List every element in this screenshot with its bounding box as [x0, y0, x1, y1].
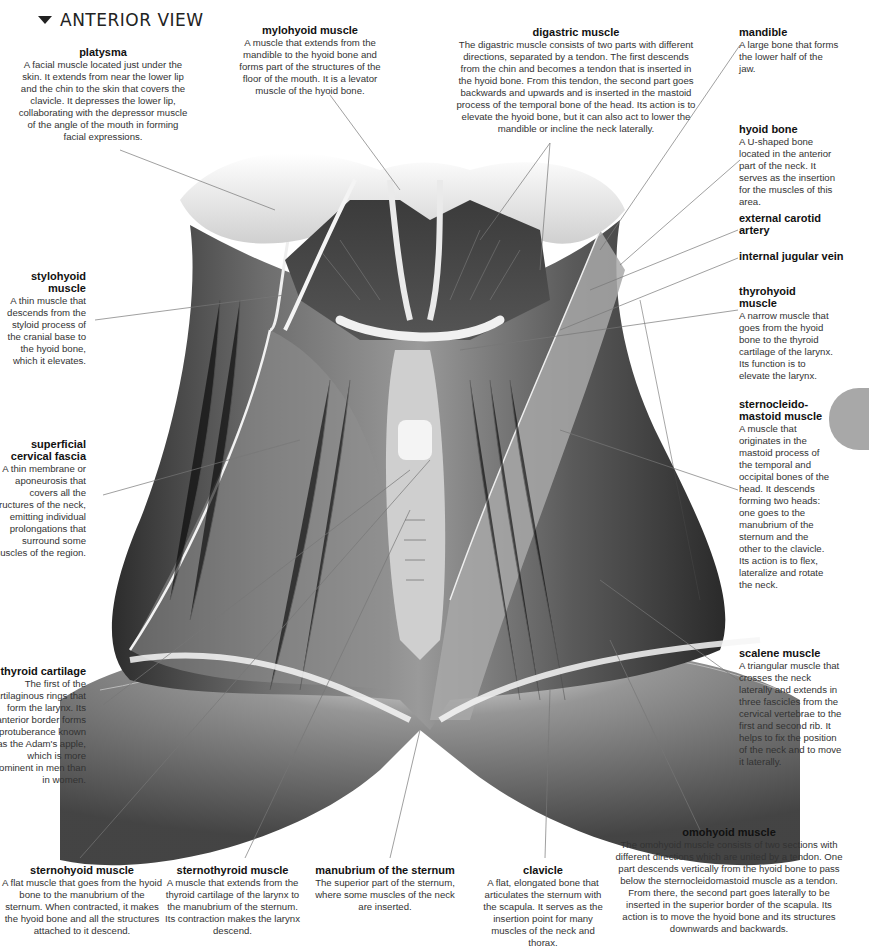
- label-stylohyoid: stylohyoid muscle A thin muscle that des…: [0, 270, 86, 367]
- label-title: sternocleido-mastoid muscle: [739, 398, 831, 422]
- label-title: external carotid artery: [739, 212, 839, 236]
- label-title: mylohyoid muscle: [230, 24, 390, 36]
- label-title: mandible: [739, 26, 839, 38]
- label-scalene: scalene muscle A triangular muscle that …: [739, 647, 844, 768]
- label-title: thyroid cartilage: [0, 665, 86, 677]
- label-title: scalene muscle: [739, 647, 844, 659]
- triangle-down-icon: [38, 16, 52, 24]
- label-clavicle: clavicle A flat, elongated bone that art…: [478, 864, 608, 949]
- label-text: A muscle that extends from the thyroid c…: [165, 877, 300, 936]
- label-text: The omohyoid muscle consists of two sect…: [615, 839, 842, 934]
- label-text: A thin membrane or aponeurosis that cove…: [0, 463, 86, 558]
- label-text: A large bone that forms the lower half o…: [739, 39, 838, 74]
- label-text: A narrow muscle that goes from the hyoid…: [739, 310, 833, 381]
- view-title: ANTERIOR VIEW: [38, 10, 204, 30]
- label-thyrohyoid: thyrohyoid muscle A narrow muscle that g…: [739, 285, 834, 382]
- label-text: A muscle that extends from the mandible …: [239, 37, 380, 96]
- label-text: A U-shaped bone located in the anterior …: [739, 136, 835, 207]
- label-digastric: digastric muscle The digastric muscle co…: [456, 26, 696, 135]
- label-external-carotid-artery: external carotid artery: [739, 212, 839, 237]
- label-hyoid-bone: hyoid bone A U-shaped bone located in th…: [739, 123, 844, 208]
- label-title: stylohyoid muscle: [0, 270, 86, 294]
- label-manubrium: manubrium of the sternum The superior pa…: [312, 864, 458, 913]
- label-text: A facial muscle located just under the s…: [19, 59, 188, 142]
- label-text: A flat muscle that goes from the hyoid b…: [2, 877, 162, 936]
- label-title: hyoid bone: [739, 123, 844, 135]
- label-sternocleidomastoid: sternocleido-mastoid muscle A muscle tha…: [739, 398, 831, 591]
- label-title: digastric muscle: [456, 26, 696, 38]
- label-platysma: platysma A facial muscle located just un…: [18, 46, 188, 143]
- label-title: sternothyroid muscle: [165, 864, 300, 876]
- label-sternohyoid: sternohyoid muscle A flat muscle that go…: [2, 864, 162, 937]
- view-title-text: ANTERIOR VIEW: [60, 10, 204, 30]
- label-title: superficial cervical fascia: [0, 438, 86, 462]
- label-title: sternohyoid muscle: [2, 864, 162, 876]
- label-text: A flat, elongated bone that articulates …: [483, 877, 602, 948]
- label-title: thyrohyoid muscle: [739, 285, 834, 309]
- label-text: A thin muscle that descends from the sty…: [7, 295, 86, 366]
- label-internal-jugular-vein: internal jugular vein: [739, 250, 849, 263]
- label-text: The digastric muscle consists of two par…: [457, 39, 696, 134]
- label-omohyoid: omohyoid muscle The omohyoid muscle cons…: [612, 826, 846, 935]
- label-thyroid-cartilage: thyroid cartilage The first of the carti…: [0, 665, 86, 786]
- label-mandible: mandible A large bone that forms the low…: [739, 26, 839, 75]
- label-title: internal jugular vein: [739, 250, 849, 262]
- label-text: The superior part of the sternum, where …: [315, 877, 455, 912]
- label-superficial-cervical-fascia: superficial cervical fascia A thin membr…: [0, 438, 86, 559]
- label-title: clavicle: [478, 864, 608, 876]
- label-text: The first of the cartilaginous rings tha…: [0, 678, 86, 785]
- label-sternothyroid: sternothyroid muscle A muscle that exten…: [165, 864, 300, 937]
- label-mylohyoid: mylohyoid muscle A muscle that extends f…: [230, 24, 390, 97]
- label-text: A muscle that originates in the mastoid …: [739, 423, 829, 590]
- label-title: platysma: [18, 46, 188, 58]
- label-title: omohyoid muscle: [612, 826, 846, 838]
- label-text: A triangular muscle that crosses the nec…: [739, 660, 841, 767]
- label-title: manubrium of the sternum: [312, 864, 458, 876]
